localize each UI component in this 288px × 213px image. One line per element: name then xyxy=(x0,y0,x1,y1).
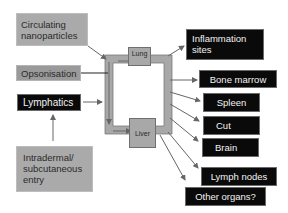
lymphatics-label: Lymphatics xyxy=(23,97,73,108)
opsonisation-box: Opsonisation xyxy=(16,65,81,81)
intradermal-label-line2: subcutaneous xyxy=(23,163,88,174)
spleen-label: Spleen xyxy=(217,97,247,108)
destination-brain: Brain xyxy=(202,138,259,157)
circulating-nanoparticles-box: Circulating nanoparticles xyxy=(16,13,88,46)
lymphatics-box: Lymphatics xyxy=(17,94,81,111)
lung-label: Lung xyxy=(132,50,148,57)
liver-label: Liver xyxy=(135,130,150,137)
cut-label: Cut xyxy=(216,120,231,131)
destination-bone-marrow: Bone marrow xyxy=(199,70,277,88)
opsonisation-label: Opsonisation xyxy=(21,68,76,79)
destination-spleen: Spleen xyxy=(203,93,260,112)
inflammation-label-line1: Inflammation xyxy=(192,33,258,44)
intradermal-label-line1: Intradermal/ xyxy=(23,152,88,163)
destination-inflammation-sites: Inflammation sites xyxy=(186,29,264,60)
inflammation-label-line2: sites xyxy=(192,44,258,55)
circulating-label-line2: nanoparticles xyxy=(21,30,83,41)
brain-label: Brain xyxy=(215,142,237,153)
destination-cut: Cut xyxy=(203,116,260,135)
bone-marrow-label: Bone marrow xyxy=(210,74,267,85)
intradermal-label-line3: entry xyxy=(23,174,88,185)
liver-box: Liver xyxy=(129,118,156,148)
intradermal-entry-box: Intradermal/ subcutaneous entry xyxy=(16,146,93,192)
lymph-nodes-label: Lymph nodes xyxy=(211,171,268,182)
destination-other-organs: Other organs? xyxy=(185,187,266,206)
circulating-label-line1: Circulating xyxy=(21,19,83,30)
lung-box: Lung xyxy=(128,47,151,66)
other-organs-label: Other organs? xyxy=(195,191,256,202)
destination-lymph-nodes: Lymph nodes xyxy=(201,167,277,186)
